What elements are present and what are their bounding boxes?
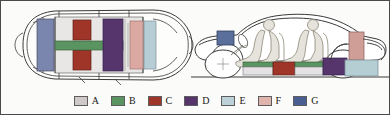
- legend-item-a[interactable]: A: [74, 96, 99, 106]
- sideview-underfloor-b-1: [243, 62, 273, 67]
- legend-item-e[interactable]: E: [221, 96, 245, 106]
- sideview-underfloor-a-2: [295, 67, 323, 75]
- sideview-rear-module-f: [349, 32, 364, 60]
- topview-rear-pack-g: [37, 19, 54, 71]
- legend-label-b: B: [129, 96, 136, 106]
- swatch-g-icon: [293, 96, 307, 106]
- legend: A B C D E F G: [1, 87, 390, 114]
- swatch-e-icon: [221, 96, 235, 106]
- sideview-underfloor-b-2: [295, 62, 323, 67]
- sideview-underfloor-c: [273, 62, 295, 75]
- topview-module-c-front: [73, 50, 91, 70]
- figure-frame: A B C D E F G: [0, 0, 390, 115]
- swatch-a-icon: [74, 96, 88, 106]
- vehicle-side-view: [191, 3, 389, 89]
- topview-module-e: [144, 21, 156, 69]
- vehicle-top-view: [3, 3, 195, 87]
- legend-label-e: E: [239, 96, 245, 106]
- legend-label-d: D: [202, 96, 209, 106]
- legend-item-f[interactable]: F: [258, 96, 282, 106]
- legend-label-g: G: [311, 96, 318, 106]
- swatch-d-icon: [184, 96, 198, 106]
- top-view-drawing: [3, 3, 195, 87]
- legend-label-a: A: [92, 96, 99, 106]
- legend-item-d[interactable]: D: [184, 96, 209, 106]
- legend-item-c[interactable]: C: [148, 96, 173, 106]
- swatch-c-icon: [148, 96, 162, 106]
- sideview-front-module-g: [217, 31, 234, 45]
- legend-label-f: F: [276, 96, 282, 106]
- sideview-rear-module-e: [345, 60, 378, 76]
- swatch-f-icon: [258, 96, 272, 106]
- topview-module-f: [130, 21, 144, 69]
- topview-module-c-rear: [73, 20, 91, 40]
- rear-bumper: [15, 33, 23, 57]
- legend-item-g[interactable]: G: [293, 96, 318, 106]
- swatch-b-icon: [111, 96, 125, 106]
- sideview-underfloor-d: [323, 58, 347, 75]
- side-view-drawing: [191, 3, 389, 89]
- legend-label-c: C: [166, 96, 173, 106]
- legend-item-b[interactable]: B: [111, 96, 136, 106]
- sideview-underfloor-a-1: [243, 67, 273, 75]
- topview-module-d: [103, 19, 123, 71]
